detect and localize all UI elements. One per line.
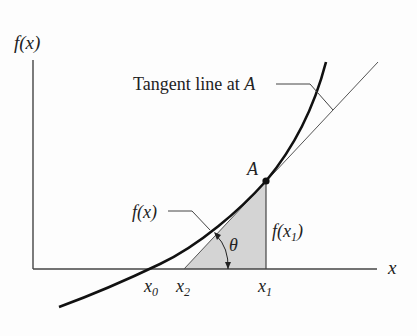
tick-x1-sub: 1 [266, 285, 272, 299]
tangent-leader [276, 84, 333, 110]
tick-x1-base: x [257, 276, 266, 296]
diagram-canvas: f(x) x Tangent line at A A f(x) f(x1) θ … [0, 0, 417, 336]
tick-x2: x2 [175, 276, 190, 299]
newton-method-diagram: f(x) x Tangent line at A A f(x) f(x1) θ … [0, 0, 417, 336]
function-curve [59, 62, 326, 307]
curve-label: f(x) [132, 202, 157, 223]
tangent-label-point: A [243, 74, 256, 94]
tick-x1: x1 [257, 276, 272, 299]
tick-x0-sub: 0 [152, 285, 158, 299]
height-label-close: ) [296, 221, 303, 242]
point-a-marker [262, 177, 269, 184]
x-axis-label: x [387, 257, 397, 278]
tick-x0-base: x [143, 276, 152, 296]
height-label: f(x1) [272, 221, 303, 244]
y-axis-label: f(x) [14, 32, 40, 54]
tick-x0: x0 [143, 276, 158, 299]
curve-leader [168, 211, 210, 230]
tangent-label-text: Tangent line at [133, 74, 244, 94]
height-label-f: f(x [272, 221, 291, 242]
point-a-label: A [246, 159, 259, 179]
tangent-label: Tangent line at A [133, 74, 256, 94]
theta-label: θ [229, 235, 238, 255]
tick-x2-sub: 2 [184, 285, 190, 299]
tick-x2-base: x [175, 276, 184, 296]
